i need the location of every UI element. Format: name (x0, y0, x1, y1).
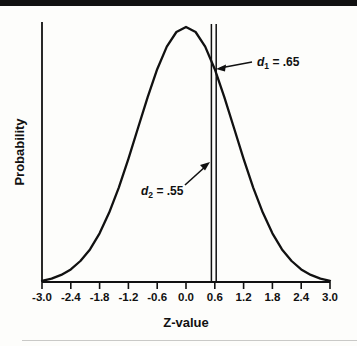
x-axis-title: Z-value (163, 315, 209, 330)
x-tick-label-8: 1.8 (264, 291, 281, 303)
annotation-label-d1: d1 = .65 (257, 55, 300, 71)
x-tick-label-10: 3.0 (322, 291, 338, 303)
x-tick-label-4: -0.6 (147, 291, 167, 303)
annotation-arrow-d2 (185, 162, 210, 185)
x-tick-label-0: -3.0 (32, 291, 52, 303)
svg-text:d2 = .55: d2 = .55 (141, 184, 184, 200)
annotation-label-d2: d2 = .55 (141, 184, 184, 200)
annotation-arrow-d1 (216, 62, 252, 72)
x-tick-label-9: 2.4 (293, 291, 310, 303)
x-tick-label-1: -2.4 (61, 291, 81, 303)
y-axis-title: Probability (12, 118, 27, 186)
x-tick-labels: -3.0 -2.4 -1.8 -1.2 -0.6 0.0 0.6 1.2 1.8… (32, 291, 338, 303)
x-tick-label-7: 1.2 (236, 291, 252, 303)
x-tick-label-6: 0.6 (207, 291, 223, 303)
x-tick-label-2: -1.8 (90, 291, 110, 303)
x-axis-ticks (42, 282, 330, 289)
annotation-d2-value: .55 (167, 184, 184, 198)
figure-container: -3.0 -2.4 -1.8 -1.2 -0.6 0.0 0.6 1.2 1.8… (0, 0, 357, 346)
x-tick-label-5: 0.0 (178, 291, 194, 303)
x-tick-label-3: -1.2 (118, 291, 138, 303)
annotation-d1-value: .65 (283, 55, 300, 69)
svg-text:d1 = .65: d1 = .65 (257, 55, 300, 71)
normal-distribution-chart: -3.0 -2.4 -1.8 -1.2 -0.6 0.0 0.6 1.2 1.8… (0, 0, 357, 346)
